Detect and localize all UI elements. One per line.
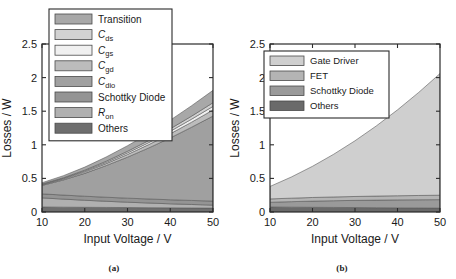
x-tick-label: 10 — [36, 216, 48, 228]
x-tick-label: 50 — [434, 216, 446, 228]
legend-label: Transition — [98, 14, 142, 25]
x-axis-title: Input Voltage / V — [311, 232, 399, 246]
x-tick-label: 20 — [79, 216, 91, 228]
y-tick-label: 1.5 — [250, 105, 265, 117]
legend-swatch-schottky-diode — [55, 92, 92, 102]
panel-b-caption: (b) — [228, 263, 456, 273]
legend-swatch-c — [55, 76, 92, 86]
x-axis-title: Input Voltage / V — [83, 232, 171, 246]
legend-swatch-gate-driver — [270, 56, 304, 66]
legend-label: Others — [310, 100, 339, 111]
y-tick-label: 0.5 — [22, 172, 37, 184]
x-tick-label: 40 — [391, 216, 403, 228]
legend-swatch-r — [55, 108, 92, 118]
y-tick-label: 1.5 — [22, 105, 37, 117]
panel-a-caption: (a) — [0, 263, 228, 273]
x-tick-label: 40 — [164, 216, 176, 228]
panel-b: 102030405000.511.522.5Input Voltage / VL… — [228, 0, 456, 279]
y-tick-label: 0 — [31, 206, 37, 218]
legend-label: Schottky Diode — [310, 85, 374, 96]
legend-label: FET — [310, 70, 328, 81]
panel-b-legend: Gate DriverFETSchottky DiodeOthers — [264, 51, 389, 118]
legend-swatch-c — [55, 61, 92, 71]
x-tick-label: 30 — [121, 216, 133, 228]
legend-swatch-c — [55, 30, 92, 40]
y-tick-label: 1 — [31, 139, 37, 151]
y-tick-label: 0 — [259, 206, 265, 218]
legend-box — [49, 9, 172, 141]
figure-container: 102030405000.511.522.5Input Voltage / VL… — [0, 0, 456, 279]
x-tick-label: 30 — [349, 216, 361, 228]
legend-swatch-schottky-diode — [270, 86, 304, 96]
x-tick-label: 10 — [264, 216, 276, 228]
legend-swatch-transition — [55, 14, 92, 24]
legend-swatch-others — [55, 123, 92, 133]
panel-a-legend: TransitionCdsCgsCgdCdioSchottky DiodeRon… — [49, 9, 172, 141]
y-tick-label: 1 — [259, 139, 265, 151]
x-tick-label: 50 — [207, 216, 219, 228]
legend-label: Others — [98, 123, 128, 134]
y-axis-title: Losses / W — [0, 98, 14, 158]
legend-swatch-fet — [270, 71, 304, 81]
panel-a: 102030405000.511.522.5Input Voltage / VL… — [0, 0, 228, 279]
y-tick-label: 2 — [31, 72, 37, 84]
y-tick-label: 0.5 — [250, 172, 265, 184]
legend-label: Schottky Diode — [98, 92, 166, 103]
x-tick-label: 20 — [306, 216, 318, 228]
y-tick-label: 2.5 — [22, 38, 37, 50]
panel-a-plot: 102030405000.511.522.5Input Voltage / VL… — [0, 0, 228, 279]
panel-b-plot: 102030405000.511.522.5Input Voltage / VL… — [228, 0, 456, 279]
legend-swatch-c — [55, 45, 92, 55]
y-axis-title: Losses / W — [228, 98, 242, 158]
y-tick-label: 2.5 — [250, 38, 265, 50]
legend-label: Gate Driver — [310, 55, 359, 66]
legend-swatch-others — [270, 101, 304, 111]
